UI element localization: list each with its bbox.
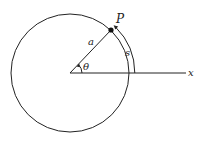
label-x: x bbox=[188, 67, 194, 78]
label-s: s bbox=[125, 47, 130, 58]
point-p bbox=[108, 27, 113, 32]
label-theta: θ bbox=[83, 61, 89, 72]
label-p: P bbox=[115, 12, 125, 26]
label-a: a bbox=[88, 36, 94, 47]
circle-arc-diagram: P a θ s x bbox=[0, 0, 202, 143]
